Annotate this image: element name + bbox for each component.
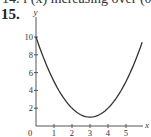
y-tick-label: 10	[25, 32, 34, 42]
x-tick-label: 1	[52, 128, 56, 137]
y-axis-label: y	[33, 7, 38, 17]
x-tick-label: 3	[88, 128, 92, 137]
x-tick-label: 5	[124, 128, 128, 137]
y-tick-label: 6	[29, 68, 33, 78]
y-tick-label: 8	[29, 50, 33, 60]
x-tick-label: 2	[70, 128, 74, 137]
x-tick-label: 4	[106, 128, 111, 137]
axes	[36, 17, 143, 126]
x-axis-label: x	[144, 120, 149, 130]
parabola-chart: 012345246810 x y	[0, 0, 151, 137]
function-curve	[36, 37, 142, 117]
y-tick-label: 2	[29, 103, 33, 113]
y-tick-label: 4	[29, 85, 34, 95]
x-tick-label: 0	[28, 128, 32, 137]
